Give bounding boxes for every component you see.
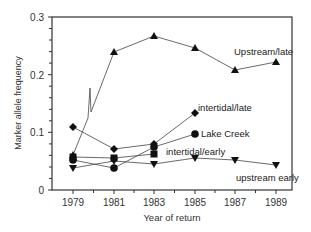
square-marker bbox=[151, 151, 158, 158]
plot-frame bbox=[52, 17, 292, 190]
triangle-up-marker bbox=[110, 48, 118, 55]
x-tick-label: 1989 bbox=[265, 197, 288, 208]
series-label-upstream-early: upstream early bbox=[236, 172, 299, 183]
circle-marker bbox=[191, 130, 199, 138]
series-label-intertidal-early: intertidal/early bbox=[166, 146, 225, 157]
triangle-down-marker bbox=[69, 165, 77, 172]
series-label-upstream-late: Upstream/late bbox=[234, 46, 293, 57]
triangle-down-marker bbox=[150, 161, 158, 168]
diamond-marker bbox=[69, 123, 77, 131]
x-tick-label: 1981 bbox=[103, 197, 126, 208]
diamond-marker bbox=[110, 145, 118, 153]
square-marker bbox=[70, 154, 77, 161]
x-tick-label: 1979 bbox=[62, 197, 85, 208]
y-tick-label: 0.3 bbox=[30, 12, 44, 23]
series-label-intertidal-late: intertidal/late bbox=[198, 102, 252, 113]
y-tick-label: 0 bbox=[38, 185, 44, 196]
x-axis bbox=[73, 190, 276, 194]
allele-frequency-chart: 0 0.1 0.2 0.3 1979 1981 1983 1985 1987 1… bbox=[0, 0, 311, 232]
y-tick-label: 0.1 bbox=[30, 127, 44, 138]
series-line-intertidal-late bbox=[73, 113, 195, 149]
x-tick-label: 1987 bbox=[224, 197, 247, 208]
y-axis-label: Marker allele frequency bbox=[13, 56, 23, 150]
circle-marker bbox=[150, 143, 158, 151]
triangle-down-marker bbox=[272, 162, 280, 169]
series-label-lake-creek: Lake Creek bbox=[201, 128, 250, 139]
triangle-up-marker bbox=[272, 58, 280, 65]
x-tick-label: 1983 bbox=[143, 197, 166, 208]
triangle-up-marker bbox=[150, 32, 158, 39]
x-tick-label: 1985 bbox=[184, 197, 207, 208]
series-line-upstream-early bbox=[73, 158, 276, 168]
y-tick-label: 0.2 bbox=[30, 70, 44, 81]
x-axis-label: Year of return bbox=[143, 212, 200, 223]
circle-marker bbox=[110, 164, 118, 172]
